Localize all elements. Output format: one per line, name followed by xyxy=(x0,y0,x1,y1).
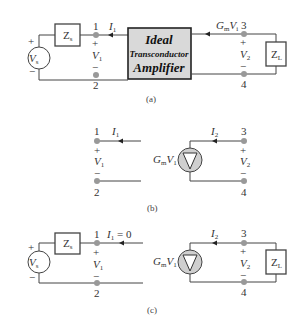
node-2-label: 2 xyxy=(94,186,100,198)
node-3-label: 3 xyxy=(241,19,247,31)
current-i2-label: I2 xyxy=(210,227,219,241)
node-1-label: 1 xyxy=(94,228,100,240)
dependent-source-label: GmV1 xyxy=(153,255,177,269)
node-2-label: 2 xyxy=(94,287,100,299)
node-3-label: 3 xyxy=(241,125,247,137)
current-i2-label: I2 xyxy=(210,125,219,139)
minus-sign: − xyxy=(93,270,99,282)
node-3-label: 3 xyxy=(241,227,247,239)
minus-sign: − xyxy=(240,269,246,281)
plus-sign: + xyxy=(92,37,98,49)
caption-b: (b) xyxy=(147,203,158,213)
circuit-figure: Vs + − Zs 1 2 I1 + V1 − Ideal Transcondu… xyxy=(0,0,307,330)
zs-label: Zs xyxy=(63,237,73,251)
plus-sign: + xyxy=(28,35,34,47)
output-current-label: GmVi xyxy=(216,19,238,33)
amplifier-title-line2: Transconductor xyxy=(129,49,189,59)
minus-sign: − xyxy=(29,65,35,77)
node-1-label: 1 xyxy=(94,125,100,137)
minus-sign: − xyxy=(240,167,246,179)
plus-sign: + xyxy=(28,241,34,253)
zs-label: Zs xyxy=(63,29,73,43)
node-2-label: 2 xyxy=(93,79,99,91)
amplifier-title-line3: Amplifier xyxy=(132,60,185,75)
amplifier-title-line1: Ideal xyxy=(144,32,173,47)
current-arrow-icon xyxy=(119,241,124,246)
current-arrow-icon xyxy=(118,139,123,144)
minus-sign: − xyxy=(92,61,98,73)
minus-sign: − xyxy=(240,60,246,72)
node-4-label: 4 xyxy=(241,78,247,90)
current-arrow-icon xyxy=(205,32,210,37)
node-1-label: 1 xyxy=(93,20,99,32)
plus-sign: + xyxy=(240,36,246,48)
dependent-source-label: GmV1 xyxy=(153,153,177,167)
current-i1-label: I1 = 0 xyxy=(106,228,132,242)
zl-label: ZL xyxy=(271,48,282,62)
source-label: Vs xyxy=(29,256,39,270)
source-label: Vs xyxy=(29,52,39,66)
current-arrow-icon xyxy=(212,241,217,246)
node-4-label: 4 xyxy=(241,286,247,298)
current-i1-label: I1 xyxy=(108,20,117,34)
current-arrow-icon xyxy=(212,139,217,144)
caption-a: (a) xyxy=(146,94,156,104)
minus-sign: − xyxy=(94,167,100,179)
current-i1-label: I1 xyxy=(111,125,120,139)
caption-c: (c) xyxy=(147,305,157,315)
node-4-label: 4 xyxy=(241,186,247,198)
zl-label: ZL xyxy=(271,256,282,270)
plus-sign: + xyxy=(240,245,246,257)
plus-sign: + xyxy=(93,246,99,258)
minus-sign: − xyxy=(29,271,35,283)
